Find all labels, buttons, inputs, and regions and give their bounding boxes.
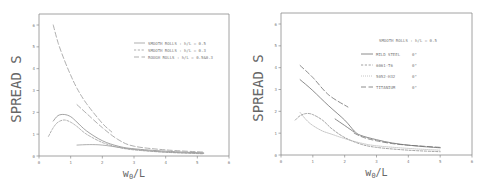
data-series-line bbox=[300, 65, 348, 107]
y-tick-label: 2 bbox=[33, 110, 36, 115]
y-tick-label: 6 bbox=[275, 22, 278, 27]
data-series-line bbox=[53, 25, 112, 132]
x-axis-label: w0/L bbox=[123, 168, 145, 181]
y-tick-label: 2 bbox=[275, 109, 278, 114]
right-chart-panel: 01234560123456SPREAD Sw0/LSMOOTH ROLLS :… bbox=[239, 0, 478, 185]
x-tick-label: 0 bbox=[38, 160, 41, 165]
x-tick-label: 2 bbox=[101, 160, 104, 165]
x-tick-label: 2 bbox=[343, 159, 346, 164]
legend-label: MILD STEEL bbox=[376, 52, 401, 57]
data-series-line bbox=[300, 112, 440, 150]
legend-label: SMOOTH ROLLS : h/L = 0.3 bbox=[148, 48, 206, 53]
y-tick-label: 3 bbox=[275, 87, 278, 92]
x-tick-label: 1 bbox=[69, 160, 72, 165]
data-series-line bbox=[354, 133, 440, 147]
y-tick-label: 3 bbox=[33, 88, 36, 93]
y-tick-label: 5 bbox=[33, 44, 36, 49]
right-chart: 01234560123456SPREAD Sw0/LSMOOTH ROLLS :… bbox=[239, 0, 478, 185]
legend-angle: 0° bbox=[412, 74, 417, 79]
x-tick-label: 6 bbox=[228, 160, 231, 165]
x-tick-label: 4 bbox=[164, 160, 167, 165]
legend-label: 6061-T6 bbox=[376, 63, 393, 68]
x-tick-label: 0 bbox=[280, 159, 283, 164]
data-series-line bbox=[49, 120, 204, 154]
y-tick-label: 5 bbox=[275, 43, 278, 48]
legend-label: TITANIUM bbox=[376, 85, 396, 90]
y-axis-label: SPREAD S bbox=[8, 55, 24, 122]
x-tick-label: 4 bbox=[407, 159, 410, 164]
data-series-line bbox=[335, 119, 354, 132]
y-tick-label: 6 bbox=[33, 23, 36, 28]
y-tick-label: 0 bbox=[275, 153, 278, 158]
x-tick-label: 5 bbox=[439, 159, 442, 164]
y-tick-label: 4 bbox=[33, 66, 36, 71]
legend-angle: 0° bbox=[412, 85, 417, 90]
x-tick-label: 3 bbox=[375, 159, 378, 164]
data-series-line bbox=[300, 80, 440, 148]
legend-label: 5052-H32 bbox=[376, 74, 396, 79]
y-tick-label: 0 bbox=[33, 154, 36, 159]
legend-label: ROUGH ROLLS : h/L = 0.5&0.3 bbox=[148, 55, 214, 60]
y-axis-label: SPREAD S bbox=[250, 54, 266, 121]
legend-angle: 0° bbox=[412, 52, 417, 57]
x-tick-label: 5 bbox=[196, 160, 199, 165]
left-chart: 01234560123456SPREAD Sw0/LSMOOTH ROLLS :… bbox=[0, 0, 239, 185]
y-tick-label: 1 bbox=[33, 132, 36, 137]
y-tick-label: 1 bbox=[275, 131, 278, 136]
x-tick-label: 1 bbox=[312, 159, 315, 164]
left-chart-panel: 01234560123456SPREAD Sw0/LSMOOTH ROLLS :… bbox=[0, 0, 239, 185]
y-tick-label: 4 bbox=[275, 65, 278, 70]
legend-angle: 0° bbox=[412, 63, 417, 68]
x-tick-label: 3 bbox=[133, 160, 136, 165]
legend-label: SMOOTH ROLLS : h/L = 0.5 bbox=[148, 41, 206, 46]
legend-title: SMOOTH ROLLS : h/L = 0.5 bbox=[379, 38, 437, 43]
x-tick-label: 6 bbox=[471, 159, 474, 164]
data-series-line bbox=[53, 114, 203, 152]
x-axis-label: w0/L bbox=[365, 167, 387, 180]
plot-frame bbox=[39, 14, 229, 156]
